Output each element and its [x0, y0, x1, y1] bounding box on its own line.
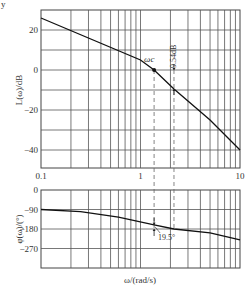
svg-text:−20: −20	[24, 105, 39, 115]
gain-margin-label: 9.54dB	[169, 45, 178, 68]
svg-text:−90: −90	[24, 205, 39, 215]
svg-text:10: 10	[236, 171, 246, 181]
svg-text:0: 0	[34, 65, 39, 75]
svg-text:−270: −270	[19, 244, 38, 254]
phase-margin-label: 19.5°	[158, 233, 175, 242]
magnitude-ylabel: L(ω)/dB	[14, 75, 24, 105]
crossover-point-marker	[152, 68, 156, 72]
magnitude-axis-labels: 200−20−400.1110	[24, 25, 245, 181]
phase-ylabel: φ(ω)/(°)	[14, 214, 24, 243]
dashed-guides	[154, 70, 174, 229]
phase-grid	[41, 190, 240, 268]
x-axis-label: ω/(rad/s)	[124, 275, 156, 285]
magnitude-grid	[41, 10, 240, 168]
svg-text:1: 1	[138, 171, 143, 181]
bode-plot-figure: y 200−20−400.1110 0−90−180−270 L(ω)/dB φ…	[0, 0, 248, 288]
svg-text:0.1: 0.1	[35, 171, 46, 181]
corner-mark: y	[1, 0, 6, 9]
svg-text:−40: −40	[24, 145, 39, 155]
svg-text:0: 0	[34, 185, 39, 195]
omega-c-label: ωc	[144, 54, 154, 64]
svg-text:20: 20	[29, 25, 39, 35]
